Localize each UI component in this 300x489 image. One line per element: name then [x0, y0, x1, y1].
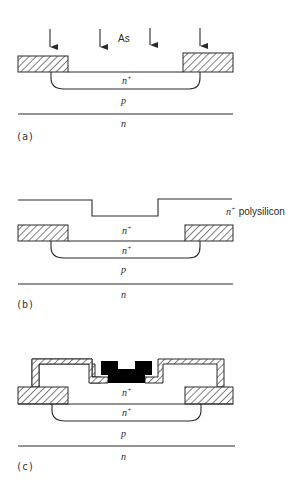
n-substrate-label: n: [121, 451, 126, 462]
panel-a: As n+ p n (a): [16, 28, 233, 142]
p-well-label: p: [120, 264, 126, 275]
oxide-block-left: [18, 387, 68, 404]
p-well-label: p: [120, 95, 126, 106]
panel-caption-a: (a): [16, 131, 34, 142]
poly-n-plus-label: n+: [122, 386, 132, 398]
polysilicon-top-surface: [18, 199, 232, 216]
panel-caption-b: (b): [16, 299, 34, 310]
n-plus-label: n+: [122, 244, 132, 256]
oxide-block-right: [185, 387, 233, 404]
oxide-block-left: [18, 225, 68, 241]
metal-contact: [101, 361, 152, 383]
oxide-block-left: [18, 56, 68, 72]
poly-n-plus-label: n+: [122, 224, 132, 236]
cap-layer-left-outline: [32, 359, 108, 387]
n-plus-label: n+: [122, 74, 132, 86]
panel-caption-c: (c): [16, 461, 34, 472]
oxide-block-right: [185, 225, 233, 241]
cap-layer-right: [145, 359, 224, 387]
panel-c: n+ n+ p n (c): [16, 359, 235, 472]
oxide-block-right: [183, 53, 233, 72]
n-substrate-label: n: [121, 289, 126, 300]
panel-b: n+polysilicon n+ n+ p n (b): [16, 199, 285, 310]
n-substrate-label: n: [121, 118, 126, 129]
process-cross-section-figure: As n+ p n (a) n+polysilicon n+ n+ p n (b…: [0, 0, 300, 489]
n-plus-label: n+: [122, 406, 132, 418]
implant-species-label: As: [118, 33, 130, 44]
p-well-label: p: [120, 428, 126, 439]
polysilicon-label: n+polysilicon: [226, 205, 285, 217]
